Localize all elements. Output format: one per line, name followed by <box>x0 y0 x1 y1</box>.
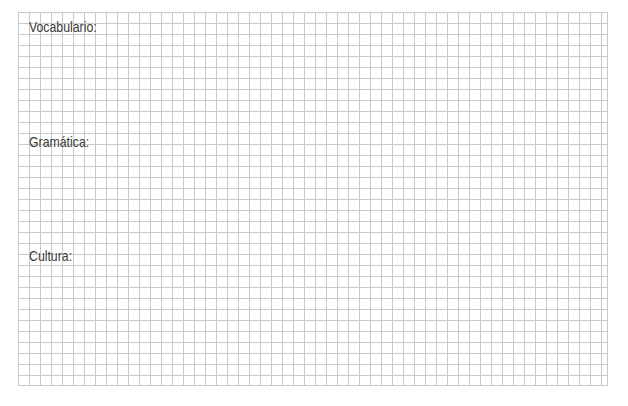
section-label-vocabulario: Vocabulario: <box>29 19 97 35</box>
section-label-gramatica: Gramática: <box>29 134 89 150</box>
grid-paper: Vocabulario: Gramática: Cultura: <box>18 12 608 386</box>
section-label-cultura: Cultura: <box>29 248 72 264</box>
